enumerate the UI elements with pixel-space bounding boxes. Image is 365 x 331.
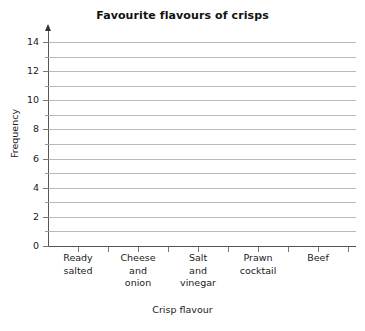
x-axis-category-label-2: Cheeseandonion: [108, 252, 168, 290]
y-tick-minor-9: [45, 115, 49, 116]
gridline-4: [48, 188, 356, 189]
y-axis-tick-label-12: 12: [15, 65, 39, 76]
gridline-5: [48, 173, 356, 174]
gridline-12: [48, 71, 356, 72]
x-axis-category-line: Ready: [48, 252, 108, 265]
plot-area: [48, 42, 356, 246]
y-axis-tick-label-2: 2: [15, 211, 39, 222]
gridline-11: [48, 86, 356, 87]
y-axis-tick-label-0: 0: [15, 240, 39, 251]
x-axis-category-line: onion: [108, 277, 168, 290]
gridline-2: [48, 217, 356, 218]
x-axis-category-label-5: Beef: [288, 252, 348, 265]
y-tick-major-14: [43, 42, 49, 43]
x-axis-category-label-4: Prawncocktail: [228, 252, 288, 277]
y-tick-major-10: [43, 100, 49, 101]
y-axis-line: [48, 30, 49, 247]
y-tick-minor-1: [45, 231, 49, 232]
y-tick-major-6: [43, 159, 49, 160]
gridline-1: [48, 231, 356, 232]
gridline-9: [48, 115, 356, 116]
y-tick-major-0: [43, 246, 49, 247]
y-axis-tick-label-14: 14: [15, 36, 39, 47]
y-tick-major-12: [43, 71, 49, 72]
x-axis-title: Crisp flavour: [0, 304, 365, 315]
x-axis-category-line: vinegar: [168, 277, 228, 290]
x-axis-line: [48, 246, 356, 247]
cut-off-text-sliver: ·· · ·: [0, 0, 365, 6]
y-tick-minor-7: [45, 144, 49, 145]
gridline-13: [48, 57, 356, 58]
chart-title: Favourite flavours of crisps: [0, 9, 365, 22]
gridline-8: [48, 129, 356, 130]
y-tick-minor-13: [45, 57, 49, 58]
y-axis-title: Frequency: [9, 99, 20, 169]
x-axis-category-label-3: Saltandvinegar: [168, 252, 228, 290]
x-axis-category-line: Beef: [288, 252, 348, 265]
x-axis-category-line: Salt: [168, 252, 228, 265]
x-axis-category-label-1: Readysalted: [48, 252, 108, 277]
y-tick-major-8: [43, 129, 49, 130]
x-axis-category-line: and: [168, 265, 228, 278]
gridline-7: [48, 144, 356, 145]
y-tick-minor-11: [45, 86, 49, 87]
x-axis-category-line: Cheese: [108, 252, 168, 265]
x-tick-boundary-5: [348, 247, 349, 252]
y-tick-major-2: [43, 217, 49, 218]
gridline-14: [48, 42, 356, 43]
x-axis-category-line: Prawn: [228, 252, 288, 265]
y-axis-arrow-icon: [45, 24, 51, 31]
x-axis-category-line: cocktail: [228, 265, 288, 278]
y-tick-major-4: [43, 188, 49, 189]
y-tick-minor-3: [45, 202, 49, 203]
gridline-10: [48, 100, 356, 101]
y-axis-tick-label-4: 4: [15, 182, 39, 193]
x-axis-category-line: and: [108, 265, 168, 278]
y-tick-minor-5: [45, 173, 49, 174]
gridline-3: [48, 202, 356, 203]
x-axis-category-line: salted: [48, 265, 108, 278]
gridline-6: [48, 159, 356, 160]
